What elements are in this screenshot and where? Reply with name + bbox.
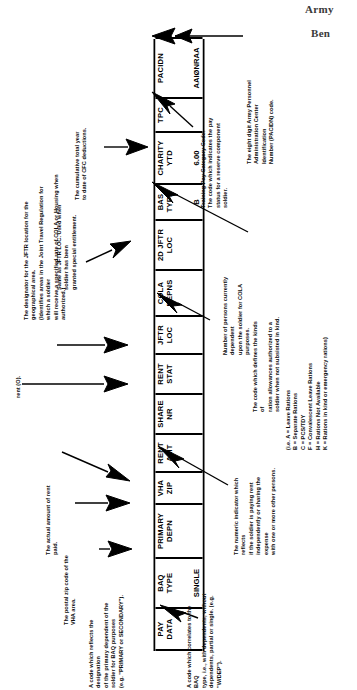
field-label-share-nr: SHARE NR: [156, 400, 173, 428]
field-value-pacidn: AAIØNRAA: [192, 39, 201, 97]
note-bas-type-codes: (i.e. A = Leave Rations B = Separate Rat…: [285, 300, 329, 450]
field-cell-vha-zip: VHA ZIP: [155, 471, 202, 505]
arrow-charity-ytd: [104, 139, 148, 155]
field-cell-primary-depn: PRIMARY DEPN: [155, 503, 202, 559]
field-label-vha-zip: VHA ZIP: [156, 480, 173, 497]
field-label-charity-ytd: CHARITY YTD: [156, 140, 173, 175]
header-word-ben: Ben: [311, 27, 330, 39]
field-cell-pacidn: PACIDNAAIØNRAA: [155, 37, 202, 99]
note-charity-ytd: The cumulative total year to date of CFC…: [74, 105, 89, 200]
arrow-rent-amt: [62, 452, 130, 481]
diagram-page: Army Ben PAY DATABAQ TYPESINGLEPRIMARY D…: [0, 0, 357, 690]
arrow-rent-stat: [22, 376, 128, 392]
field-cell-share-nr: SHARE NR: [155, 393, 202, 435]
field-label-pay-data: PAY DATA: [156, 619, 173, 640]
field-cell-bas-type: BAS TYPEB: [155, 183, 202, 221]
note-cola-depns: Number of persons currently dependent up…: [222, 260, 252, 355]
arrow-vha-zip: [75, 495, 130, 511]
field-cell-rent-stat: RENT STAT: [155, 353, 202, 395]
note-pacidn: The eight digit Army Personnel Administr…: [246, 69, 276, 164]
field-label-cola-depns: COLA DEPNS: [156, 279, 173, 306]
arrow-jftr-loc: [57, 337, 128, 353]
arrow-primary-depn: [99, 541, 132, 557]
field-label-jftr-loc: JFTR LOC: [156, 325, 173, 345]
note-rent-stat: rent (O).: [15, 320, 22, 398]
pay-data-field-strip: PAY DATABAQ TYPESINGLEPRIMARY DEPNVHA ZI…: [153, 39, 204, 651]
field-cell-rent-amt: RENT AMT: [155, 433, 202, 473]
field-label-bas-type: BAS TYPE: [156, 192, 173, 213]
field-label-2d-jftr-loc: 2D JFTR LOC: [156, 229, 173, 261]
field-label-tpc: TPC: [156, 107, 165, 123]
field-cell-charity-ytd: CHARITY YTD6.00: [155, 131, 202, 185]
note-tpc: Training Pay Category Code. The code whi…: [200, 113, 230, 208]
field-cell-cola-depns: COLA DEPNS: [155, 269, 202, 317]
field-label-rent-amt: RENT AMT: [156, 442, 173, 463]
field-label-baq-type: BAQ TYPE: [156, 573, 173, 594]
field-cell-tpc: TPC: [155, 97, 202, 133]
note-rent-amt: The actual amount of rent paid.: [45, 477, 60, 555]
note-bas-type: The code which defines the kinds of rati…: [252, 317, 282, 412]
header-word-army: Army: [305, 3, 334, 15]
note-vha-zip: The postal zip code of the VHA area.: [63, 547, 78, 625]
note-share-nr: The numeric indicator which reflects if …: [233, 460, 277, 555]
note-baq-type: A code which correlates to the BAQ type,…: [186, 593, 223, 688]
field-label-pacidn: PACIDN: [156, 53, 165, 83]
note-primary-depn: A code which reflects the designation of…: [88, 593, 125, 688]
field-cell-2d-jftr-loc: 2D JFTR LOC: [155, 219, 202, 271]
field-label-rent-stat: RENT STAT: [156, 363, 173, 384]
arrow-2d-jftr-loc: [86, 241, 131, 262]
field-cell-jftr-loc: JFTR LOC: [155, 315, 202, 355]
field-label-primary-depn: PRIMARY DEPN: [156, 513, 173, 549]
note-jftr-loc: The designator for the JFTR location for…: [23, 170, 67, 320]
